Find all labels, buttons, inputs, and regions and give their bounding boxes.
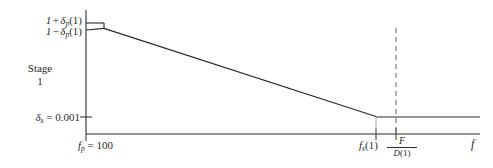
fs-arg: (1)	[365, 139, 378, 151]
sampling-rate-fraction-label: F D(1)	[387, 135, 417, 158]
transition-band-slope	[104, 28, 376, 116]
stage-word: Stage	[28, 62, 52, 74]
ripple-lower-operator: −	[51, 25, 60, 38]
stopband-ripple-label: δs = 0.001	[22, 111, 80, 126]
stage-number: 1	[14, 75, 66, 88]
stage-label: Stage 1	[14, 62, 66, 88]
filter-specification-figure: 1+δp(1) 1−δp(1) Stage 1 δs = 0.001 fp = …	[0, 0, 493, 168]
delta-s-value: = 0.001	[44, 111, 80, 123]
passband-lower-ripple-label: 1−δp(1)	[26, 25, 82, 36]
fraction-denominator: D(1)	[387, 148, 417, 159]
x-axis-label: f	[471, 137, 474, 151]
ripple-lower-arg: (1)	[69, 25, 82, 37]
passband-lower-bound-line	[86, 28, 104, 30]
passband-upper-ripple-label: 1+δp(1)	[26, 14, 82, 25]
passband-edge-label: fp = 100	[78, 139, 113, 154]
fp-value: = 100	[85, 139, 113, 151]
passband-ripple-labels: 1+δp(1) 1−δp(1)	[26, 14, 82, 36]
fraction-numerator: F	[387, 135, 417, 148]
fraction-denominator-arg: (1)	[400, 148, 411, 158]
stopband-edge-label: fs(1)	[359, 139, 378, 154]
